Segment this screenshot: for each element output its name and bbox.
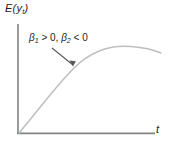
coefficient-annotation: β1 > 0, β2 < 0: [29, 33, 88, 43]
y-axis-label: E(yt): [5, 3, 28, 14]
beta1-subscript: 1: [35, 37, 39, 44]
y-axis-label-paren-close: ): [24, 2, 28, 14]
y-axis-label-paren-open: (y: [13, 2, 23, 14]
beta2-symbol: β: [61, 32, 67, 43]
beta1-relation: > 0,: [39, 32, 62, 43]
beta2-subscript: 2: [67, 37, 71, 44]
expected-value-curve: [19, 46, 161, 133]
chart-figure: E(yt) t β1 > 0, β2 < 0: [0, 0, 169, 148]
beta2-relation: < 0: [71, 32, 88, 43]
plot-canvas: [0, 0, 169, 148]
y-axis-label-main: E: [5, 2, 13, 14]
annotation-arrow: [52, 48, 76, 67]
beta1-symbol: β: [29, 32, 35, 43]
x-axis-label: t: [156, 124, 159, 135]
